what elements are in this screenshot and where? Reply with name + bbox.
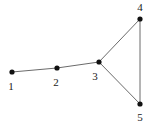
graph-diagram: 12345 <box>0 0 151 124</box>
graph-node-2 <box>54 65 59 70</box>
graph-edge-3-5 <box>99 62 140 104</box>
graph-node-label-2: 2 <box>53 77 59 88</box>
graph-edge-1-2 <box>12 68 57 72</box>
graph-node-label-3: 3 <box>92 71 98 82</box>
graph-edge-2-3 <box>57 62 99 68</box>
graph-node-3 <box>96 59 101 64</box>
graph-node-label-1: 1 <box>8 81 14 92</box>
edge-layer <box>12 19 140 104</box>
node-layer <box>9 16 142 106</box>
graph-node-label-4: 4 <box>137 2 143 13</box>
graph-node-label-5: 5 <box>137 112 143 123</box>
graph-node-4 <box>137 16 142 21</box>
graph-edge-3-4 <box>99 19 140 62</box>
graph-node-1 <box>9 69 14 74</box>
graph-canvas <box>0 0 151 124</box>
graph-node-5 <box>137 101 142 106</box>
